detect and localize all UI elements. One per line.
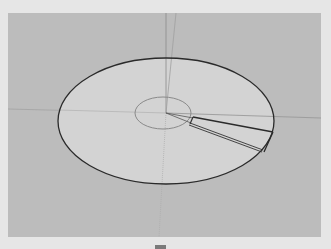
model-viewport[interactable] [8, 13, 321, 237]
tab-icon[interactable] [155, 245, 166, 249]
app-frame [0, 0, 331, 249]
scene-canvas[interactable] [8, 13, 321, 237]
